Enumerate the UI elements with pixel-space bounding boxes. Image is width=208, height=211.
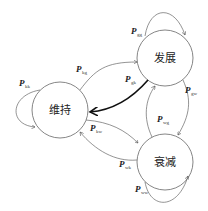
svg-text:wk: wk	[125, 165, 132, 170]
svg-text:kg: kg	[82, 70, 88, 75]
label-kk: P kk	[19, 78, 31, 89]
edge-wk	[80, 132, 137, 160]
node-develop: 发展	[137, 30, 193, 86]
svg-text:ww: ww	[141, 190, 149, 195]
label-wg: P wg	[157, 114, 170, 125]
state-transition-diagram: 发展 维持 衰减 P gg P kk P kg P gk P gw	[0, 0, 208, 211]
label-kg: P kg	[76, 64, 88, 75]
svg-text:gw: gw	[191, 91, 198, 96]
node-decline-label: 衰减	[154, 155, 176, 169]
node-develop-label: 发展	[154, 51, 176, 65]
label-wk: P wk	[119, 159, 132, 170]
svg-text:gg: gg	[137, 32, 143, 37]
edge-gk	[90, 80, 148, 112]
label-ww: P ww	[135, 184, 149, 195]
edge-wg	[146, 86, 155, 137]
label-gg: P gg	[131, 26, 143, 37]
label-gw: P gw	[185, 85, 198, 96]
node-decline: 衰减	[137, 134, 193, 190]
label-gk: P gk	[125, 74, 137, 85]
label-kw: P kw	[90, 123, 103, 134]
svg-text:wg: wg	[163, 120, 170, 125]
node-maintain: 维持	[32, 82, 88, 138]
svg-text:kw: kw	[96, 129, 103, 134]
node-maintain-label: 维持	[49, 103, 71, 117]
svg-text:gk: gk	[131, 80, 137, 85]
svg-text:kk: kk	[25, 84, 31, 89]
